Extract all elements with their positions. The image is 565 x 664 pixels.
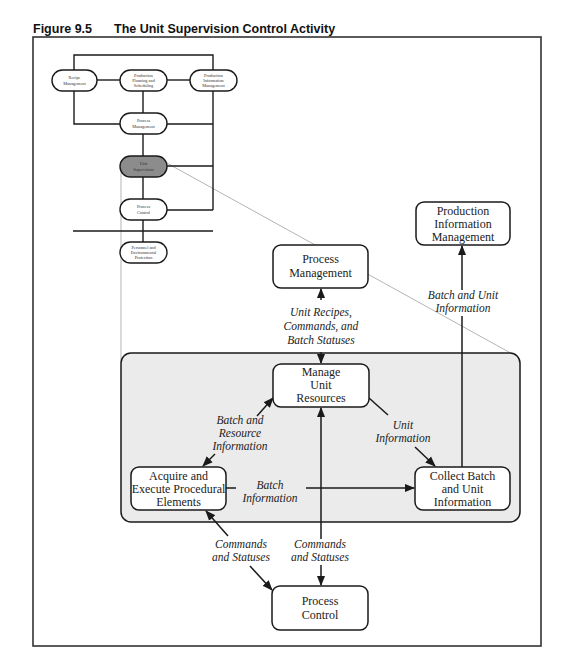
overview-node-process-management: Process Management: [120, 113, 167, 134]
node-process-management: Process Management: [273, 245, 368, 288]
svg-text:Unit: Unit: [393, 419, 414, 431]
svg-text:Management: Management: [202, 83, 225, 88]
overview-node-production-information: Production Information Management: [190, 70, 237, 91]
svg-text:Process: Process: [137, 204, 150, 209]
svg-text:and Statuses: and Statuses: [212, 551, 270, 563]
svg-text:Execute Procedural: Execute Procedural: [132, 482, 226, 496]
overview-node-unit-supervision: Unit Supervision: [120, 156, 167, 177]
svg-text:Control: Control: [137, 210, 151, 215]
unit-supervision-diagram: Recipe Management Production Planning an…: [0, 0, 565, 664]
svg-text:Information: Information: [242, 492, 298, 505]
svg-text:Control: Control: [302, 608, 339, 622]
svg-text:Unit: Unit: [140, 161, 148, 166]
svg-text:Information: Information: [434, 495, 491, 509]
svg-text:Management: Management: [132, 124, 155, 129]
svg-text:Protection: Protection: [135, 255, 154, 260]
node-acquire-execute-procedural-elements: Acquire and Execute Procedural Elements: [131, 467, 226, 510]
svg-text:Management: Management: [289, 266, 352, 280]
flow-label-commands-statuses-middle: Commands and Statuses: [291, 538, 349, 563]
node-collect-batch-unit-information: Collect Batch and Unit Information: [415, 467, 510, 510]
overview-node-production-planning: Production Planning and Scheduling: [120, 70, 167, 91]
svg-text:Recipe: Recipe: [69, 75, 81, 80]
node-process-control: Process Control: [272, 586, 368, 630]
svg-text:Scheduling: Scheduling: [134, 83, 154, 88]
svg-text:Production: Production: [437, 204, 490, 218]
svg-text:Resources: Resources: [296, 391, 346, 405]
node-production-information-management: Production Information Management: [416, 202, 510, 245]
node-manage-unit-resources: Manage Unit Resources: [273, 364, 369, 407]
svg-text:Manage: Manage: [302, 365, 341, 379]
svg-text:Management: Management: [63, 81, 86, 86]
svg-text:Batch and: Batch and: [217, 414, 264, 426]
svg-text:Resource: Resource: [218, 427, 261, 439]
svg-text:Information: Information: [434, 217, 491, 231]
flow-label-unit-recipes: Unit Recipes, Commands, and Batch Status…: [284, 306, 359, 346]
svg-text:Information: Information: [212, 440, 268, 453]
svg-text:Elements: Elements: [156, 495, 201, 509]
flow-label-batch-unit-information: Batch and Unit Information: [428, 289, 499, 315]
svg-text:Commands: Commands: [294, 538, 346, 550]
svg-text:Information: Information: [375, 432, 431, 445]
svg-text:Unit Recipes,: Unit Recipes,: [290, 306, 352, 319]
svg-text:Information: Information: [435, 302, 491, 315]
svg-text:Acquire and: Acquire and: [149, 469, 208, 483]
flow-label-batch-resource-information: Batch and Resource Information: [212, 414, 268, 453]
svg-text:Batch and Unit: Batch and Unit: [428, 289, 499, 301]
svg-text:Unit: Unit: [310, 378, 332, 392]
overview-node-recipe-management: Recipe Management: [52, 70, 97, 91]
overview-node-process-control: Process Control: [120, 199, 167, 220]
svg-text:Process: Process: [302, 594, 339, 608]
svg-text:Management: Management: [432, 230, 495, 244]
svg-text:Commands: Commands: [215, 538, 267, 550]
svg-text:Process: Process: [302, 252, 339, 266]
svg-text:Batch: Batch: [257, 479, 284, 491]
svg-text:and Statuses: and Statuses: [291, 551, 349, 563]
overview-node-personnel-protection: Personnel and Environmental Protection: [120, 242, 167, 263]
svg-text:Batch Statuses: Batch Statuses: [287, 334, 355, 346]
flow-label-commands-statuses-left: Commands and Statuses: [212, 538, 270, 563]
svg-text:Process: Process: [137, 118, 150, 123]
svg-text:Supervision: Supervision: [133, 167, 154, 172]
svg-text:and Unit: and Unit: [442, 482, 484, 496]
svg-text:Collect Batch: Collect Batch: [430, 469, 496, 483]
svg-text:Commands, and: Commands, and: [284, 320, 359, 333]
